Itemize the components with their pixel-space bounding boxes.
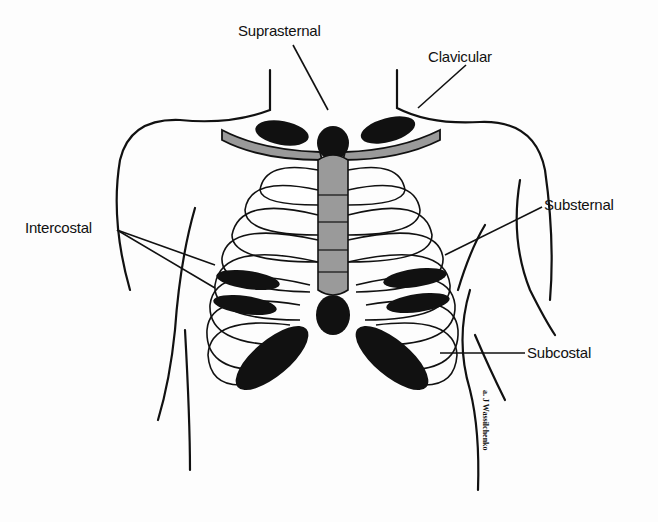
label-subcostal: Subcostal bbox=[527, 344, 591, 361]
neck-right-line bbox=[397, 70, 552, 300]
chest-illustration bbox=[0, 0, 658, 522]
label-clavicular: Clavicular bbox=[428, 48, 492, 65]
sternum bbox=[318, 155, 348, 295]
label-suprasternal: Suprasternal bbox=[238, 22, 321, 39]
torso-right-line bbox=[463, 290, 479, 490]
retraction-diagram: Suprasternal Clavicular Intercostal Subs… bbox=[0, 0, 658, 522]
torso-left-line bbox=[185, 330, 190, 470]
torso-right-inner bbox=[458, 225, 485, 290]
label-intercostal: Intercostal bbox=[25, 219, 92, 236]
artist-signature: a. J Wassilchenko bbox=[481, 390, 490, 451]
label-substernal: Substernal bbox=[544, 196, 614, 213]
waist-right bbox=[475, 335, 505, 400]
arm-left-line bbox=[158, 208, 195, 420]
